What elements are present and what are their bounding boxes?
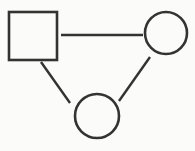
node-circle-right — [145, 12, 187, 54]
edge-circle-right-to-circle-bottom — [119, 57, 150, 101]
edge-square-to-circle-bottom — [41, 62, 70, 103]
diagram-canvas: Node link diagram — [0, 0, 195, 151]
node-square — [9, 12, 57, 60]
node-circle-bottom — [75, 94, 119, 138]
node-link-diagram — [0, 0, 195, 151]
